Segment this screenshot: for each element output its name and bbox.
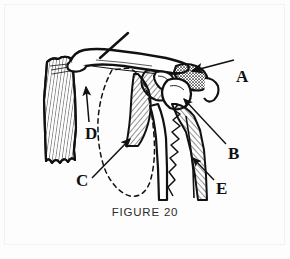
figure-container: A B C D E FIGURE 20 <box>0 0 290 259</box>
shoulder-anatomy-illustration <box>0 0 290 259</box>
label-c: C <box>76 172 88 189</box>
label-d: D <box>85 125 97 142</box>
leader-arrow-d <box>86 87 89 122</box>
leader-arrow-a <box>192 60 234 71</box>
sternum-fragment <box>44 57 76 163</box>
label-a: A <box>236 68 248 85</box>
humeral-shaft <box>150 104 207 200</box>
clavicle <box>67 49 188 74</box>
label-b: B <box>228 145 239 162</box>
figure-caption: FIGURE 20 <box>0 206 290 218</box>
leader-arrow-c <box>92 139 130 178</box>
label-e: E <box>216 180 227 197</box>
